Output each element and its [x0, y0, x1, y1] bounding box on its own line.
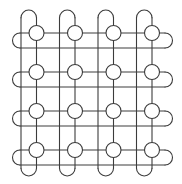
circle-node: [68, 104, 83, 119]
circle-node: [29, 65, 44, 80]
bottom-loop: [137, 168, 153, 176]
circle-node: [68, 26, 83, 41]
circle-nodes: [29, 26, 160, 158]
left-loop: [13, 111, 20, 126]
right-loop: [165, 150, 173, 165]
circle-node: [106, 104, 121, 119]
circle-node: [68, 65, 83, 80]
top-loop: [137, 10, 153, 18]
circle-node: [106, 143, 121, 158]
circle-node: [145, 104, 160, 119]
circle-node: [145, 143, 160, 158]
top-loop: [98, 10, 114, 18]
knot-grid-diagram: [0, 0, 182, 184]
top-loop: [21, 10, 37, 18]
circle-node: [29, 104, 44, 119]
bottom-loop: [98, 168, 114, 176]
right-loop: [165, 33, 173, 48]
left-loop: [13, 150, 20, 165]
left-loop: [13, 33, 20, 48]
circle-node: [29, 143, 44, 158]
bottom-loop: [21, 168, 37, 176]
circle-node: [29, 26, 44, 41]
circle-node: [68, 143, 83, 158]
right-loop: [165, 72, 173, 87]
bottom-loop: [60, 168, 76, 176]
right-loop: [165, 111, 173, 126]
circle-node: [145, 65, 160, 80]
left-loop: [13, 72, 20, 87]
circle-node: [145, 26, 160, 41]
top-loop: [60, 10, 76, 18]
circle-node: [106, 26, 121, 41]
circle-node: [106, 65, 121, 80]
